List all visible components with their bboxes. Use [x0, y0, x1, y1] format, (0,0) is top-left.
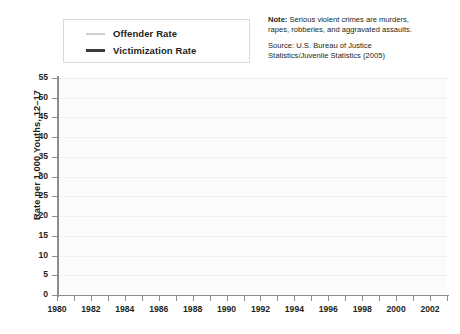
gridline-y-20	[57, 216, 447, 217]
legend-item-victimization-rate: Victimization Rate	[86, 45, 196, 56]
y-tick-label-30: 30	[18, 171, 48, 181]
gridline-y-25	[57, 196, 447, 197]
gridline-y-40	[57, 137, 447, 138]
x-tick-1981	[74, 296, 75, 301]
y-tick-15	[52, 236, 57, 237]
y-tick-25	[52, 196, 57, 197]
gridline-y-5	[57, 275, 447, 276]
x-tick-1991	[244, 296, 245, 301]
gridline-y-15	[57, 236, 447, 237]
y-tick-label-55: 55	[18, 72, 48, 82]
source-line-1: Source: U.S. Bureau of Justice	[268, 41, 460, 51]
chart-plot-area	[57, 78, 447, 295]
y-tick-label-40: 40	[18, 131, 48, 141]
note-text-line-2: rapes, robberies, and aggravated assault…	[268, 25, 460, 35]
y-tick-label-25: 25	[18, 190, 48, 200]
y-tick-20	[52, 216, 57, 217]
x-tick-1990	[227, 296, 228, 301]
y-tick-label-20: 20	[18, 210, 48, 220]
y-axis-line	[57, 76, 59, 297]
y-tick-50	[52, 98, 57, 99]
x-tick-2000	[396, 296, 397, 301]
note-and-source-block: Note: Serious violent crimes are murders…	[268, 15, 460, 62]
x-axis-line	[57, 295, 449, 296]
x-tick-1997	[345, 296, 346, 301]
legend-item-offender-rate: Offender Rate	[86, 28, 177, 39]
note-line-1: Note: Serious violent crimes are murders…	[268, 15, 460, 25]
gridline-y-30	[57, 177, 447, 178]
x-tick-1985	[142, 296, 143, 301]
x-tick-1983	[108, 296, 109, 301]
note-label: Note:	[268, 15, 287, 24]
x-tick-1984	[125, 296, 126, 301]
y-tick-55	[52, 78, 57, 79]
y-tick-40	[52, 137, 57, 138]
source-line-2: Statistics/Juvenile Statistics (2005)	[268, 51, 460, 61]
x-tick-1995	[311, 296, 312, 301]
y-tick-label-5: 5	[18, 269, 48, 279]
gridline-y-50	[57, 98, 447, 99]
legend-label-offender: Offender Rate	[113, 28, 177, 39]
x-tick-1986	[159, 296, 160, 301]
legend-swatch-victimization-line-icon	[86, 49, 105, 52]
x-tick-1994	[294, 296, 295, 301]
legend-label-victimization: Victimization Rate	[113, 45, 196, 56]
x-tick-1996	[328, 296, 329, 301]
x-tick-1999	[379, 296, 380, 301]
plot-background	[57, 78, 447, 295]
y-tick-5	[52, 275, 57, 276]
y-tick-label-35: 35	[18, 151, 48, 161]
x-tick-1992	[260, 296, 261, 301]
x-tick-label-2002: 2002	[410, 304, 450, 314]
gridline-y-35	[57, 157, 447, 158]
y-tick-label-45: 45	[18, 111, 48, 121]
x-tick-2003	[447, 296, 448, 301]
source-block: Source: U.S. Bureau of Justice Statistic…	[268, 41, 460, 62]
y-tick-45	[52, 117, 57, 118]
legend-box: Offender Rate Victimization Rate	[63, 19, 250, 63]
legend-swatch-offender-line-icon	[86, 33, 105, 35]
y-tick-30	[52, 177, 57, 178]
gridline-y-10	[57, 256, 447, 257]
y-tick-35	[52, 157, 57, 158]
y-tick-label-50: 50	[18, 92, 48, 102]
y-tick-label-0: 0	[18, 289, 48, 299]
x-tick-2002	[430, 296, 431, 301]
gridline-y-45	[57, 117, 447, 118]
y-tick-10	[52, 256, 57, 257]
y-tick-label-15: 15	[18, 230, 48, 240]
y-tick-label-10: 10	[18, 250, 48, 260]
x-tick-1982	[91, 296, 92, 301]
x-tick-1998	[362, 296, 363, 301]
x-tick-1989	[210, 296, 211, 301]
x-tick-1980	[57, 296, 58, 301]
x-tick-1993	[277, 296, 278, 301]
gridline-y-55	[57, 78, 447, 79]
x-tick-2001	[413, 296, 414, 301]
note-text-line-1: Serious violent crimes are murders,	[290, 15, 409, 24]
x-tick-1988	[193, 296, 194, 301]
x-tick-1987	[176, 296, 177, 301]
